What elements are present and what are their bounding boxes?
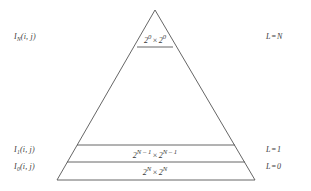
size-label-middle-times: ×: [151, 151, 159, 160]
size-label-bottom: 2N×2N: [143, 166, 167, 177]
size-label-bottom-exp2: N: [163, 165, 167, 172]
size-label-middle: 2N – 1×2N – 1: [133, 149, 177, 160]
level-label-top: IN(i, j): [14, 33, 36, 41]
level-label-middle-args: (i, j): [20, 145, 35, 154]
level-label-top-args: (i, j): [21, 32, 36, 41]
size-label-top-times: ×: [151, 36, 159, 45]
level-label-bottom: I0(i, j): [14, 163, 35, 171]
level-label-bottom-args: (i, j): [20, 162, 35, 171]
l-value-label-middle: L=1: [266, 146, 281, 154]
level-label-middle-sub: 1: [17, 149, 20, 155]
size-label-middle-exp2: N – 1: [163, 148, 177, 155]
l-value-top-value: N: [277, 32, 282, 41]
l-value-bottom-value: 0: [277, 162, 281, 171]
size-label-top: 20×20: [144, 34, 166, 45]
size-label-top-exp2: 0: [163, 33, 166, 40]
size-label-middle-exp1: N – 1: [137, 148, 151, 155]
l-value-label-bottom: L=0: [266, 163, 281, 171]
level-label-middle: I1(i, j): [14, 146, 35, 154]
level-label-top-sub: N: [17, 36, 21, 42]
level-label-bottom-sub: 0: [17, 166, 20, 172]
size-label-bottom-times: ×: [151, 168, 159, 177]
pyramid-drawing: [0, 0, 311, 191]
l-value-middle-value: 1: [277, 145, 281, 154]
pyramid-figure: IN(i, j) I1(i, j) I0(i, j) 20×20 2N – 1×…: [0, 0, 311, 191]
l-value-label-top: L=N: [266, 33, 282, 41]
